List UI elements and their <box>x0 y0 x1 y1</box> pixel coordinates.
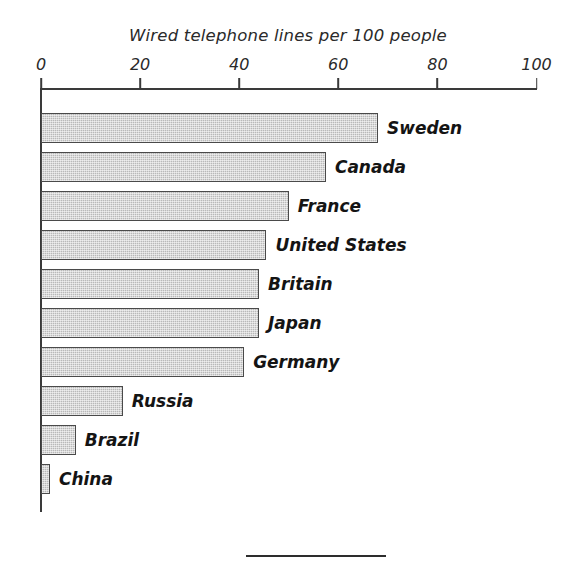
bar-label: Canada <box>335 157 406 177</box>
bar-row[interactable]: United States <box>41 230 576 260</box>
bar-row[interactable]: Japan <box>41 308 576 338</box>
bar-label: Japan <box>268 313 322 333</box>
bar-row[interactable]: Sweden <box>41 113 576 143</box>
bar[interactable] <box>41 308 259 338</box>
bar-row[interactable]: Canada <box>41 152 576 182</box>
bar-row[interactable]: Russia <box>41 386 576 416</box>
bar[interactable] <box>41 113 378 143</box>
bar-label: China <box>59 469 113 489</box>
bar[interactable] <box>41 191 289 221</box>
bar-label: Germany <box>253 352 339 372</box>
bar-label: Russia <box>132 391 194 411</box>
bar-label: Britain <box>268 274 333 294</box>
bar-chart: Wired telephone lines per 100 people 020… <box>0 0 576 575</box>
footer-rule <box>246 555 386 557</box>
bar-row[interactable]: Britain <box>41 269 576 299</box>
bar-label: Brazil <box>85 430 139 450</box>
bar-row[interactable]: Brazil <box>41 425 576 455</box>
bar[interactable] <box>41 464 50 494</box>
bar[interactable] <box>41 152 326 182</box>
plot-area: SwedenCanadaFranceUnited StatesBritainJa… <box>0 0 576 530</box>
bar[interactable] <box>41 386 123 416</box>
bar-row[interactable]: France <box>41 191 576 221</box>
bar-label: United States <box>275 235 406 255</box>
bar-row[interactable]: Germany <box>41 347 576 377</box>
bar-label: France <box>298 196 361 216</box>
bar-label: Sweden <box>387 118 462 138</box>
bar-row[interactable]: China <box>41 464 576 494</box>
bar[interactable] <box>41 347 244 377</box>
bar[interactable] <box>41 230 266 260</box>
bar[interactable] <box>41 269 259 299</box>
bar[interactable] <box>41 425 76 455</box>
